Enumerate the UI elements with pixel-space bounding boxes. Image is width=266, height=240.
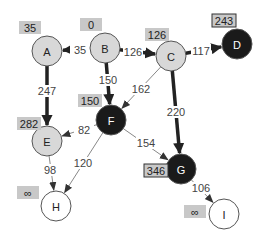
distance-value: 243 [215, 15, 233, 27]
distance-value: 126 [148, 29, 166, 41]
edge-A-E: 247 [37, 66, 57, 125]
edge-B-C: 126 [120, 46, 155, 58]
edge-C-G: 220 [166, 71, 186, 153]
edge-weight-label: 82 [78, 124, 90, 136]
edge-weight-label: 150 [99, 74, 117, 86]
edge-C-F: 162 [122, 67, 161, 108]
edges-layer: 351261171501622472208215498120106 [37, 44, 221, 202]
node-label: C [167, 51, 175, 63]
edge-weight-label: 154 [137, 137, 155, 149]
graph-diagram: 351261171501622472208215498120106 A35B0C… [0, 0, 266, 240]
node-label: A [43, 46, 51, 58]
edge-weight-label: 106 [192, 182, 210, 194]
node-H: H∞ [17, 186, 71, 221]
edge-weight-label: 35 [74, 44, 86, 56]
node-label: D [233, 39, 241, 51]
edge-weight-label: 126 [124, 46, 142, 58]
node-G: G346 [144, 154, 196, 184]
distance-value: 0 [88, 19, 94, 31]
distance-value: 282 [20, 118, 38, 130]
node-label: I [222, 209, 225, 221]
node-D: D243 [212, 14, 252, 59]
distance-value: ∞ [24, 187, 32, 199]
distance-value: ∞ [191, 206, 199, 218]
edge-weight-label: 247 [38, 85, 56, 97]
node-A: A35 [19, 21, 62, 66]
edge-G-I: 106 [191, 180, 213, 203]
node-C: C126 [145, 28, 186, 71]
distance-value: 150 [81, 95, 99, 107]
edge-weight-label: 117 [192, 45, 210, 57]
edge-F-H: 120 [65, 133, 103, 193]
node-label: E [43, 136, 50, 148]
node-label: B [101, 43, 108, 55]
edge-F-E: 82 [62, 124, 97, 136]
node-label: G [177, 164, 186, 176]
edge-weight-label: 98 [44, 164, 56, 176]
edge-F-G: 154 [123, 129, 168, 160]
distance-value: 346 [147, 165, 165, 177]
edge-weight-label: 120 [74, 157, 92, 169]
distance-value: 35 [24, 22, 36, 34]
node-B: B0 [80, 18, 120, 63]
node-I: I∞ [184, 199, 239, 229]
edge-B-A: 35 [63, 44, 90, 56]
edge-weight-label: 162 [132, 83, 150, 95]
node-E: E282 [17, 117, 62, 156]
edge-weight-label: 220 [167, 106, 185, 118]
edge-C-D: 117 [186, 45, 222, 57]
edge-E-H: 98 [40, 156, 60, 190]
node-label: H [52, 201, 60, 213]
node-label: F [108, 115, 115, 127]
